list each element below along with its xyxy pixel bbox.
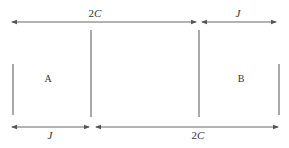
region-b-label: B	[238, 73, 245, 84]
top-2c-label: 2C	[89, 7, 103, 19]
dimension-diagram: 2C J A B J 2C	[0, 0, 289, 148]
bottom-j-label: J	[48, 129, 54, 141]
bottom-2c-label: 2C	[192, 129, 206, 141]
region-a-label: A	[44, 73, 52, 84]
top-j-label: J	[236, 7, 242, 19]
